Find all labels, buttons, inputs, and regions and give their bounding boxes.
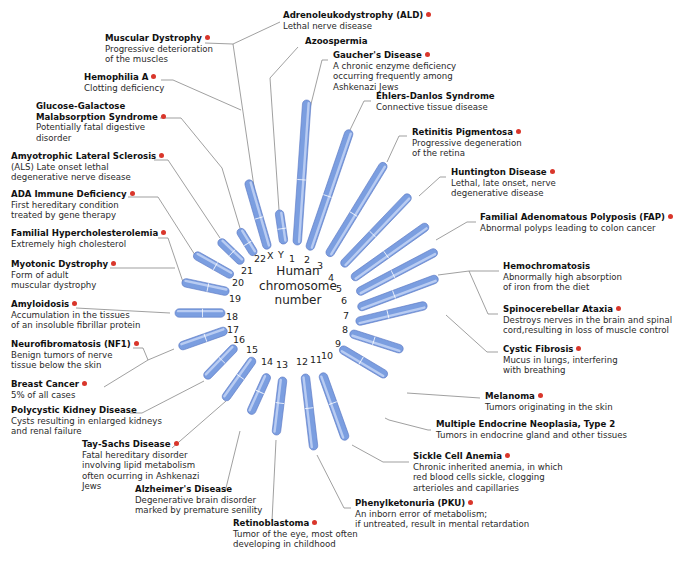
center-label-line-3: number — [246, 293, 350, 308]
disease-label-spinocerebellar-ataxia: Spinocerebellar AtaxiaDestroys nerves in… — [503, 304, 672, 336]
chromosome-number-22: 22 — [254, 253, 266, 264]
disease-label-melanoma: MelanomaTumors originating in the skin — [485, 391, 613, 412]
disease-description-line: Degenerative brain disorder — [135, 495, 262, 506]
disease-label-alzheimer-s-disease: Alzheimer's DiseaseDegenerative brain di… — [135, 484, 262, 516]
disease-label-polycystic-kidney-disease: Polycystic Kidney DiseaseCysts resulting… — [11, 405, 162, 437]
disease-name: Multiple Endocrine Neoplasia, Type 2 — [436, 419, 615, 429]
red-marker-dot-icon — [161, 230, 166, 235]
disease-label-myotonic-dystrophy: Myotonic DystrophyForm of adultmuscular … — [11, 259, 116, 291]
disease-name: Gaucher's Disease — [333, 50, 422, 60]
disease-description-line: Destroys nerves in the brain and spinal — [503, 315, 672, 326]
disease-description-line: of the muscles — [105, 54, 213, 65]
chromosome-19 — [181, 278, 230, 296]
chromosome-number-10: 10 — [321, 350, 333, 361]
center-label: Human chromosome number — [246, 264, 350, 308]
disease-description-line: Fatal hereditary disorder — [82, 450, 199, 461]
disease-description-line: Benign tumors of nerve — [11, 350, 139, 361]
disease-name: Myotonic Dystrophy — [11, 259, 108, 269]
disease-description-line: Tumors in endocrine gland and other tiss… — [436, 430, 627, 441]
disease-description-line: Lethal, late onset, nerve — [451, 178, 556, 189]
leader-line — [407, 393, 480, 398]
disease-label-amyotrophic-lateral-sclerosis: Amyotrophic Lateral Sclerosis(ALS) Late … — [11, 151, 164, 183]
chromosome-number-12: 12 — [296, 356, 308, 367]
chromosome-1 — [293, 100, 311, 246]
leader-line — [309, 60, 328, 112]
disease-label-huntington-disease: Huntington DiseaseLethal, late onset, ne… — [451, 167, 556, 199]
disease-name: Glucose-Galactose — [36, 101, 125, 111]
disease-description-line: occurring frequently among — [333, 71, 456, 82]
red-marker-dot-icon — [468, 500, 473, 505]
red-marker-dot-icon — [426, 12, 431, 17]
disease-description-line: tissue below the skin — [11, 360, 139, 371]
disease-description-line: Progressive degeneration — [412, 138, 522, 149]
red-marker-dot-icon — [130, 191, 135, 196]
disease-name: Muscular Dystrophy — [105, 33, 202, 43]
disease-label-hemochromatosis: HemochromatosisAbnormally high absorptio… — [503, 261, 622, 293]
disease-name-line-2: Malabsorption Syndrome — [36, 112, 158, 122]
disease-name: Familial Adenomatous Polyposis (FAP) — [480, 212, 665, 222]
chromosome-13 — [272, 376, 287, 435]
disease-name: Hemochromatosis — [503, 261, 590, 271]
chromosome-number-19: 19 — [229, 293, 241, 304]
disease-description-line: An inborn error of metabolism; — [355, 509, 529, 520]
leader-line — [446, 315, 498, 352]
chromosome-number-9: 9 — [335, 338, 341, 349]
chromosome-11 — [318, 372, 350, 442]
disease-description-line: Abnormally high absorption — [503, 272, 622, 283]
disease-description-line: often ocurring in Ashkenazi — [82, 471, 199, 482]
red-marker-dot-icon — [151, 74, 156, 79]
red-marker-dot-icon — [616, 306, 621, 311]
disease-description-line: degenerative nerve disease — [11, 172, 164, 183]
disease-label-sickle-cell-anemia: Sickle Cell AnemiaChronic inherited anem… — [413, 451, 563, 493]
disease-label-adrenoleukodystrophy-ald: Adrenoleukodystrophy (ALD)Lethal nerve d… — [283, 10, 431, 31]
leader-line — [419, 177, 446, 196]
center-label-line-1: Human — [246, 264, 350, 279]
disease-description-line: arterioles and capillaries — [413, 483, 563, 494]
leader-line — [160, 118, 240, 228]
disease-label-phenylketonuria-pku: Phenylketonuria (PKU)An inborn error of … — [355, 498, 529, 530]
disease-description-line: with breathing — [503, 365, 618, 376]
disease-description-line: if untreated, result in mental retardati… — [355, 519, 529, 530]
disease-label-gaucher-s-disease: Gaucher's DiseaseA chronic enzyme defici… — [333, 50, 456, 92]
red-marker-dot-icon — [668, 214, 673, 219]
disease-name: Huntington Disease — [451, 167, 547, 177]
disease-description-line: and renal failure — [11, 426, 162, 437]
disease-label-familial-hypercholesterolemia: Familial HypercholesterolemiaExtremely h… — [11, 228, 166, 249]
disease-description-line: Tumor of the eye, most often — [233, 529, 358, 540]
disease-label-neurofibromatosis-nf1: Neurofibromatosis (NF1)Benign tumors of … — [11, 339, 139, 371]
disease-label-familial-adenomatous-polyposis-fap: Familial Adenomatous Polyposis (FAP)Abno… — [480, 212, 673, 233]
red-marker-dot-icon — [161, 114, 166, 119]
disease-description-line: red blood cells sickle, clogging — [413, 472, 563, 483]
chromosome-10 — [338, 344, 389, 379]
leader-line — [469, 271, 498, 314]
disease-name: Neurofibromatosis (NF1) — [11, 339, 131, 349]
red-marker-dot-icon — [134, 341, 139, 346]
chromosome-number-X: X — [267, 250, 274, 261]
red-marker-dot-icon — [505, 453, 510, 458]
leader-line — [387, 136, 407, 162]
disease-description-line: 5% of all cases — [11, 390, 87, 401]
disease-name: Alzheimer's Disease — [135, 484, 232, 494]
disease-description-line: (ALS) Late onset lethal — [11, 162, 164, 173]
leader-line — [161, 80, 241, 110]
red-marker-dot-icon — [72, 301, 77, 306]
chromosome-17 — [178, 326, 229, 351]
disease-name: Melanoma — [485, 391, 535, 401]
disease-description-line: First hereditary condition — [11, 200, 135, 211]
disease-name: Breast Cancer — [11, 379, 79, 389]
disease-name: Phenylketonuria (PKU) — [355, 498, 465, 508]
disease-description-line: Form of adult — [11, 270, 116, 281]
disease-name: Amyloidosis — [11, 299, 69, 309]
disease-name: Hemophilia A — [84, 72, 148, 82]
chromosome-number-13: 13 — [276, 359, 288, 370]
disease-description-line: degenerative disease — [451, 188, 556, 199]
disease-label-ehlers-danlos-syndrome: Ehlers-Danlos SyndromeConnective tissue … — [376, 91, 495, 112]
disease-label-muscular-dystrophy: Muscular DystrophyProgressive deteriorat… — [105, 33, 213, 65]
disease-description-line: muscular dystrophy — [11, 280, 116, 291]
disease-label-cystic-fibrosis: Cystic FibrosisMucus in lungs, interferi… — [503, 344, 618, 376]
disease-description-line: of an insoluble fibrillar protein — [11, 320, 140, 331]
disease-label-ada-immune-deficiency: ADA Immune DeficiencyFirst hereditary co… — [11, 189, 135, 221]
chromosome-number-20: 20 — [232, 277, 244, 288]
disease-name: Amyotrophic Lateral Sclerosis — [11, 151, 156, 161]
disease-name: Retinoblastoma — [233, 518, 309, 528]
